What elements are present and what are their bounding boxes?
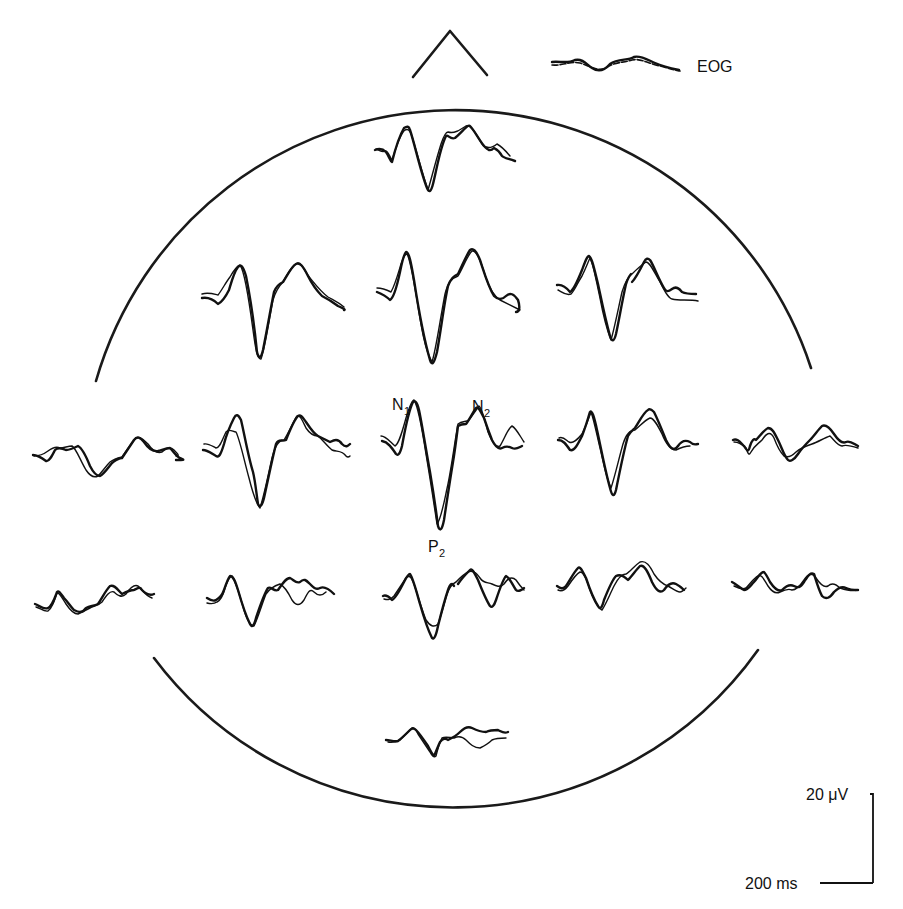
waveform-a [732, 572, 858, 598]
head-outline [96, 31, 811, 807]
waveform-a [377, 249, 519, 363]
amplitude-scale-line [870, 794, 873, 883]
channel-row3-far-left [33, 437, 183, 476]
channel-row4-far-right [732, 572, 858, 598]
waveform-b [558, 258, 698, 340]
channel-row4-left [207, 576, 334, 626]
waveform-b [202, 263, 344, 359]
channel-top-center [375, 126, 515, 191]
waveform-b [376, 126, 510, 190]
channel-row3-right [558, 409, 698, 495]
waveform-b [377, 251, 520, 362]
waveform-b [381, 400, 524, 524]
channel-row3-center [381, 400, 524, 529]
n2-label-main: N [472, 398, 484, 415]
channel-row2-center [377, 249, 520, 363]
channel-bottom-center [386, 727, 508, 757]
waveform-a [733, 425, 858, 460]
p2-label-sub: 2 [439, 547, 445, 559]
channel-row3-far-right [733, 425, 858, 460]
eog-channel: EOG [552, 57, 733, 75]
channel-row4-right [557, 562, 686, 610]
channel-row2-left [202, 263, 345, 359]
waveform-b [734, 434, 858, 457]
evoked-potential-topography: EOG [0, 0, 903, 909]
amplitude-scale-label: 20 μV [806, 786, 848, 803]
waveform-a [35, 586, 154, 612]
waveform-b [204, 416, 350, 508]
eog-label: EOG [697, 58, 733, 75]
channel-row4-far-left [35, 585, 154, 614]
channel-row3-left [203, 415, 350, 508]
waveform-a [557, 566, 684, 608]
n1-label-sub: 1 [404, 405, 410, 417]
scale-bar: 20 μV 200 ms [745, 786, 873, 892]
channel-row4-center [383, 569, 524, 638]
p2-label-main: P [428, 538, 439, 555]
waveform-a [203, 415, 350, 506]
waveform-a [202, 264, 345, 358]
head-top-arc [96, 110, 811, 381]
time-scale-label: 200 ms [745, 875, 797, 892]
nose-triangle [413, 31, 487, 77]
n1-label-main: N [392, 396, 404, 413]
channel-row2-right [557, 256, 698, 340]
n2-label-sub: 2 [484, 407, 490, 419]
waveform-a [557, 256, 696, 340]
waveform-a [33, 438, 183, 476]
waveform-a [558, 409, 698, 495]
head-bottom-arc [154, 650, 758, 807]
